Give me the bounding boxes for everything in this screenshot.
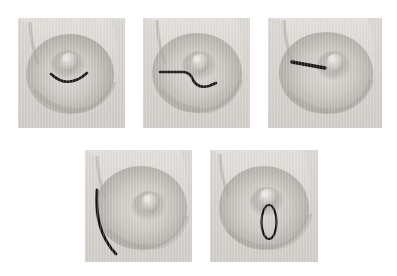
panel-4-image (85, 150, 192, 262)
panel-4 (85, 150, 192, 262)
panel-2 (143, 18, 250, 128)
panel-2-image (143, 18, 250, 128)
panel-3-image (268, 18, 382, 128)
panel-1-image (18, 18, 125, 128)
figure-surgical-incision-markings (0, 0, 397, 276)
panel-5-image (210, 150, 318, 262)
panel-3 (268, 18, 382, 128)
panel-1 (18, 18, 125, 128)
panel-5 (210, 150, 318, 262)
